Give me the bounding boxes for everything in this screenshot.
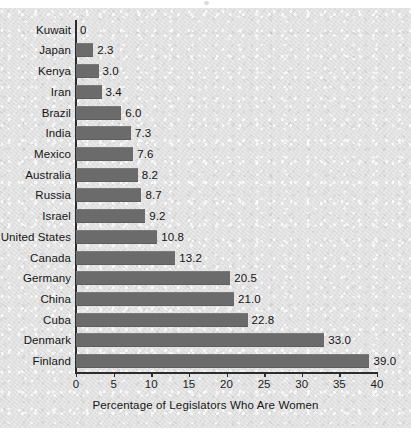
x-tick-label-30: 30 [295, 378, 308, 390]
value-label-australia: 8.2 [142, 169, 158, 181]
bar-row: Israel9.2 [76, 206, 377, 226]
value-label-kuwait: 0 [80, 24, 87, 36]
category-label-japan: Japan [39, 44, 71, 56]
bar-row: Australia8.2 [76, 165, 377, 185]
category-label-canada: Canada [30, 252, 71, 264]
bar-row: Mexico7.6 [76, 144, 377, 164]
value-label-japan: 2.3 [97, 44, 113, 56]
bar-row: India7.3 [76, 124, 377, 144]
value-label-canada: 13.2 [179, 252, 202, 264]
category-label-germany: Germany [23, 272, 71, 284]
category-label-finland: Finland [33, 355, 71, 367]
bar-united-states [76, 230, 157, 244]
bar-canada [76, 251, 175, 265]
value-label-israel: 9.2 [149, 210, 165, 222]
x-tick-label-15: 15 [182, 378, 195, 390]
value-label-cuba: 22.8 [252, 314, 275, 326]
scan-speck [204, 1, 209, 5]
bar-brazil [76, 106, 121, 120]
value-label-iran: 3.4 [106, 86, 122, 98]
x-tick-label-20: 20 [220, 378, 233, 390]
category-label-kenya: Kenya [38, 65, 71, 77]
x-axis-title: Percentage of Legislators Who Are Women [0, 399, 411, 411]
bar-denmark [76, 333, 324, 347]
value-label-denmark: 33.0 [328, 334, 351, 346]
category-label-kuwait: Kuwait [36, 24, 71, 36]
category-label-denmark: Denmark [24, 334, 71, 346]
bar-iran [76, 85, 102, 99]
bar-finland [76, 354, 369, 368]
x-tick-25 [264, 372, 265, 377]
bar-row: Brazil6.0 [76, 103, 377, 123]
category-label-israel: Israel [42, 210, 71, 222]
bar-russia [76, 188, 141, 202]
x-tick-label-25: 25 [258, 378, 271, 390]
category-label-mexico: Mexico [34, 148, 71, 160]
category-label-iran: Iran [51, 86, 71, 98]
x-tick-15 [189, 372, 190, 377]
x-tick-20 [227, 372, 228, 377]
value-label-brazil: 6.0 [125, 107, 141, 119]
bar-row: China21.0 [76, 289, 377, 309]
x-tick-10 [151, 372, 152, 377]
bar-japan [76, 43, 93, 57]
bar-israel [76, 209, 145, 223]
chart-figure: 0510152025303540 Kuwait0Japan2.3Kenya3.0… [0, 0, 411, 434]
bar-row: Kuwait0 [76, 20, 377, 40]
bar-row: Kenya3.0 [76, 61, 377, 81]
x-tick-30 [302, 372, 303, 377]
bar-mexico [76, 147, 133, 161]
x-tick-label-0: 0 [73, 378, 80, 390]
bar-row: Russia8.7 [76, 186, 377, 206]
value-label-finland: 39.0 [373, 355, 396, 367]
value-label-mexico: 7.6 [137, 148, 153, 160]
bar-row: Iran3.4 [76, 82, 377, 102]
x-tick-label-5: 5 [110, 378, 117, 390]
bar-india [76, 126, 131, 140]
x-tick-35 [339, 372, 340, 377]
value-label-russia: 8.7 [145, 189, 161, 201]
category-label-cuba: Cuba [43, 314, 71, 326]
value-label-kenya: 3.0 [103, 65, 119, 77]
x-tick-40 [377, 372, 378, 377]
bar-row: Cuba22.8 [76, 310, 377, 330]
x-tick-0 [76, 372, 77, 377]
category-label-australia: Australia [25, 169, 71, 181]
bar-row: Canada13.2 [76, 248, 377, 268]
plot-area: 0510152025303540 Kuwait0Japan2.3Kenya3.0… [76, 20, 377, 372]
bar-row: United States10.8 [76, 227, 377, 247]
value-label-china: 21.0 [238, 293, 261, 305]
bar-row: Japan2.3 [76, 41, 377, 61]
value-label-germany: 20.5 [234, 272, 257, 284]
x-tick-label-10: 10 [145, 378, 158, 390]
bar-row: Denmark33.0 [76, 331, 377, 351]
bar-cuba [76, 313, 248, 327]
category-label-russia: Russia [35, 189, 71, 201]
bar-china [76, 292, 234, 306]
bar-row: Germany20.5 [76, 268, 377, 288]
category-label-brazil: Brazil [42, 107, 71, 119]
category-label-china: China [40, 293, 71, 305]
value-label-united-states: 10.8 [161, 231, 184, 243]
x-tick-label-40: 40 [371, 378, 384, 390]
bar-australia [76, 168, 138, 182]
bar-row: Finland39.0 [76, 351, 377, 371]
category-label-united-states: United States [1, 231, 71, 243]
bar-kenya [76, 64, 99, 78]
value-label-india: 7.3 [135, 127, 151, 139]
x-tick-label-35: 35 [333, 378, 346, 390]
bar-germany [76, 271, 230, 285]
x-tick-5 [114, 372, 115, 377]
category-label-india: India [46, 127, 71, 139]
